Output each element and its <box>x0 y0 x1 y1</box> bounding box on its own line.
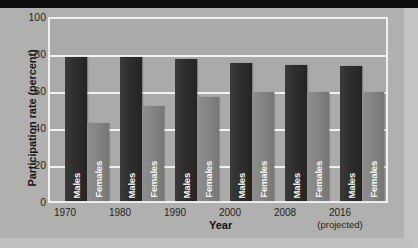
x-axis-title: Year <box>209 219 232 231</box>
bottom-page-margin <box>0 238 410 248</box>
bar-label-holder: Females <box>142 161 164 198</box>
y-tick-80: 80 <box>20 49 46 59</box>
bar-label-males: Males <box>181 173 192 198</box>
bar-label-holder: Males <box>340 173 362 198</box>
x-tick-2008: 2008 <box>255 207 315 218</box>
x-tick-1990: 1990 <box>145 207 205 218</box>
bar-label-holder: Females <box>197 161 219 198</box>
bar-label-holder: Females <box>362 161 384 198</box>
y-tick-100: 100 <box>20 12 46 22</box>
bar-label-holder: Males <box>230 173 252 198</box>
gridline-80 <box>50 55 386 57</box>
bar-males-1980: Males <box>120 57 142 201</box>
bar-females-2000: Females <box>252 92 274 201</box>
bar-label-males: Males <box>126 173 137 198</box>
bar-females-2016: Females <box>362 92 384 201</box>
bar-label-females: Females <box>93 161 104 198</box>
bar-females-1970: Females <box>87 123 109 201</box>
bar-label-males: Males <box>71 173 82 198</box>
bar-label-holder: Males <box>120 173 142 198</box>
bar-label-holder: Males <box>175 173 197 198</box>
bar-label-holder: Males <box>65 173 87 198</box>
bar-males-1990: Males <box>175 59 197 201</box>
x-tick-2016: 2016 (projected) <box>310 207 370 230</box>
bar-males-1970: Males <box>65 57 87 201</box>
x-tick-2000: 2000 <box>200 207 260 218</box>
bar-males-2000: Males <box>230 63 252 201</box>
y-tick-0: 0 <box>20 197 46 207</box>
plot-area: Males Females Males Females Males Female… <box>48 17 388 203</box>
gridline-60 <box>50 92 386 94</box>
bar-label-holder: Females <box>87 161 109 198</box>
bar-females-1980: Females <box>142 106 164 201</box>
bar-females-2008: Females <box>307 92 329 201</box>
x-tick-2016-year: 2016 <box>329 207 351 218</box>
bar-label-holder: Males <box>285 173 307 198</box>
bar-label-females: Females <box>258 161 269 198</box>
bar-label-females: Females <box>368 161 379 198</box>
bar-label-males: Males <box>346 173 357 198</box>
bar-label-females: Females <box>313 161 324 198</box>
top-black-band <box>0 0 418 8</box>
bar-females-1990: Females <box>197 97 219 201</box>
bar-label-males: Males <box>291 173 302 198</box>
y-tick-40: 40 <box>20 123 46 133</box>
x-tick-2016-note: (projected) <box>310 219 370 230</box>
bar-label-holder: Females <box>307 161 329 198</box>
bar-label-females: Females <box>203 161 214 198</box>
y-tick-60: 60 <box>20 86 46 96</box>
x-tick-1980: 1980 <box>90 207 150 218</box>
bar-males-2008: Males <box>285 65 307 201</box>
right-page-margin <box>404 8 418 248</box>
y-tick-20: 20 <box>20 160 46 170</box>
bar-label-holder: Females <box>252 161 274 198</box>
chart-screenshot: Participation rate (percent) 100 80 60 4… <box>0 0 418 248</box>
bar-label-males: Males <box>236 173 247 198</box>
bar-males-2016: Males <box>340 66 362 201</box>
x-tick-1970: 1970 <box>35 207 95 218</box>
bar-label-females: Females <box>148 161 159 198</box>
